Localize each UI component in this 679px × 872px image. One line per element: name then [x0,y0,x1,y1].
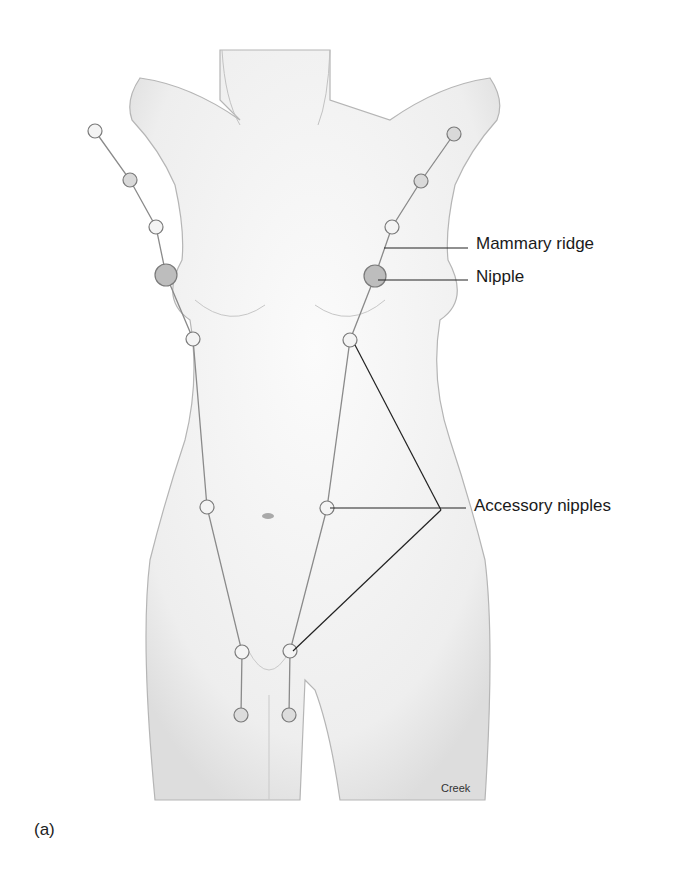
artist-credit: Creek [441,782,470,794]
label-nipple: Nipple [476,267,524,287]
label-accessory-nipples: Accessory nipples [474,496,611,516]
nipple-left [155,264,177,286]
navel [262,513,274,519]
label-mammary-ridge: Mammary ridge [476,234,594,254]
panel-label: (a) [34,820,55,840]
torso-outline [130,50,500,800]
diagram: Mammary ridge Nipple Accessory nipples C… [0,0,679,872]
nipple-right [364,265,386,287]
torso-illustration [0,0,679,872]
